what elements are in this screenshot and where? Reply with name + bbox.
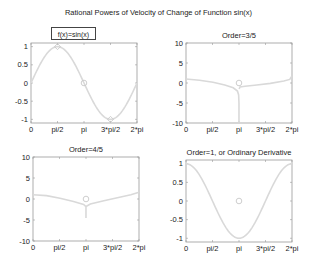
- y-tick-label: 0.5: [18, 60, 28, 69]
- x-tick-label: 3*pi/2: [256, 244, 275, 253]
- axes-box: [33, 157, 139, 241]
- x-tick-label: 0: [184, 125, 188, 134]
- y-tick-label: 0: [179, 79, 183, 88]
- y-tick-label: 10: [175, 39, 183, 48]
- x-tick-label: 3*pi/2: [103, 243, 122, 252]
- y-tick-label: 0: [24, 79, 28, 88]
- y-tick-label: 1: [179, 159, 183, 168]
- x-tick-label: pi/2: [53, 243, 65, 252]
- y-tick-label: -10: [19, 237, 30, 246]
- y-tick-label: -0.5: [170, 215, 183, 224]
- y-tick-label: -10: [172, 119, 183, 128]
- x-tick-label: pi: [236, 125, 242, 134]
- y-tick-label: 10: [22, 153, 30, 162]
- x-tick-label: 0: [184, 244, 188, 253]
- subplot-order-3-5: 0pi/2pi3*pi/22*pi1050-5-10: [172, 39, 299, 135]
- y-tick-label: 1: [24, 42, 28, 51]
- x-tick-label: 3*pi/2: [256, 125, 275, 134]
- y-tick-label: -0.5: [15, 97, 28, 106]
- y-tick-label: 0.5: [173, 178, 183, 187]
- y-tick-label: -1: [21, 115, 28, 124]
- x-tick-label: pi/2: [206, 244, 218, 253]
- x-tick-label: 0: [31, 243, 35, 252]
- x-tick-label: 3*pi/2: [101, 125, 120, 134]
- figure-canvas: 0pi/2pi3*pi/22*pi10.50-0.5-1 0pi/2pi3*pi…: [0, 0, 317, 270]
- subplot-order-4-5: 0pi/2pi3*pi/22*pi1050-5-10: [19, 153, 146, 253]
- y-tick-label: 0: [179, 197, 183, 206]
- x-tick-label: 2*pi: [286, 125, 299, 134]
- x-tick-label: pi: [83, 243, 89, 252]
- y-tick-label: -5: [176, 99, 183, 108]
- y-tick-label: -5: [23, 216, 30, 225]
- x-tick-label: pi: [81, 125, 87, 134]
- x-tick-label: 2*pi: [131, 125, 144, 134]
- y-tick-label: 5: [179, 59, 183, 68]
- subplot-sin: 0pi/2pi3*pi/22*pi10.50-0.5-1: [15, 42, 144, 134]
- y-tick-label: -1: [176, 234, 183, 243]
- axes-box: [186, 160, 292, 242]
- y-tick-label: 0: [26, 195, 30, 204]
- y-tick-label: 5: [26, 174, 30, 183]
- x-tick-label: pi: [236, 244, 242, 253]
- subplot-order-1: 0pi/2pi3*pi/22*pi10.50-0.5-1: [170, 159, 299, 253]
- x-tick-label: 2*pi: [133, 243, 146, 252]
- x-tick-label: 0: [29, 125, 33, 134]
- x-tick-label: 2*pi: [286, 244, 299, 253]
- x-tick-label: pi/2: [206, 125, 218, 134]
- x-tick-label: pi/2: [51, 125, 63, 134]
